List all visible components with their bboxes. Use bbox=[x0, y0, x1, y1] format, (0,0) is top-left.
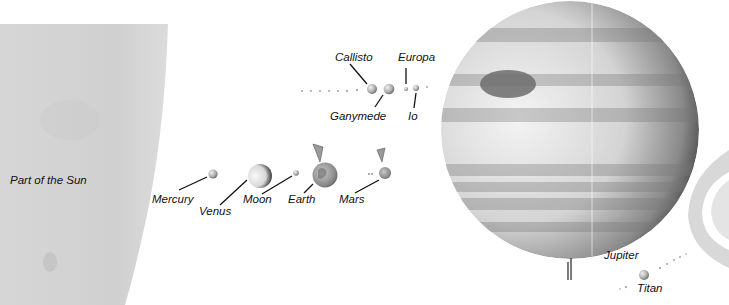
io bbox=[413, 85, 419, 91]
mars-marker bbox=[377, 148, 385, 162]
label-europa: Europa bbox=[398, 52, 435, 64]
label-titan: Titan bbox=[637, 283, 662, 295]
titan bbox=[639, 270, 649, 280]
venus bbox=[248, 164, 272, 188]
callisto bbox=[367, 84, 377, 94]
moon bbox=[293, 170, 299, 176]
label-earth: Earth bbox=[288, 194, 316, 206]
jupiter bbox=[430, 0, 720, 260]
mercury bbox=[208, 169, 217, 178]
label-mercury: Mercury bbox=[152, 194, 194, 206]
label-callisto: Callisto bbox=[335, 52, 373, 64]
europa bbox=[404, 87, 408, 91]
label-sun: Part of the Sun bbox=[10, 175, 87, 187]
ganymede bbox=[384, 84, 395, 95]
label-ganymede: Ganymede bbox=[330, 111, 386, 123]
earth-marker bbox=[313, 144, 323, 162]
label-moon: Moon bbox=[243, 194, 272, 206]
label-io: Io bbox=[408, 111, 418, 123]
label-venus: Venus bbox=[199, 206, 231, 218]
mars bbox=[379, 167, 391, 179]
sun-shape bbox=[0, 24, 168, 305]
label-jupiter: Jupiter bbox=[604, 250, 639, 262]
label-mars: Mars bbox=[339, 194, 365, 206]
